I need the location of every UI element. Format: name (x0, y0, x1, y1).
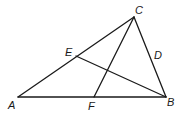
label-a: A (7, 99, 15, 111)
segment-cf (94, 17, 134, 97)
label-e: E (65, 46, 73, 58)
label-d: D (154, 49, 162, 61)
label-b: B (167, 96, 174, 108)
label-c: C (135, 4, 143, 16)
triangle-diagram: A B C D E F (0, 0, 182, 114)
triangle-figure: A B C D E F (0, 0, 182, 114)
label-f: F (88, 100, 96, 112)
segment-ca (18, 17, 134, 97)
